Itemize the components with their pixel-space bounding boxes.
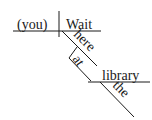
subject-word: (you) (17, 17, 48, 33)
sentence-diagram: (you) Wait here at library the (0, 0, 152, 120)
